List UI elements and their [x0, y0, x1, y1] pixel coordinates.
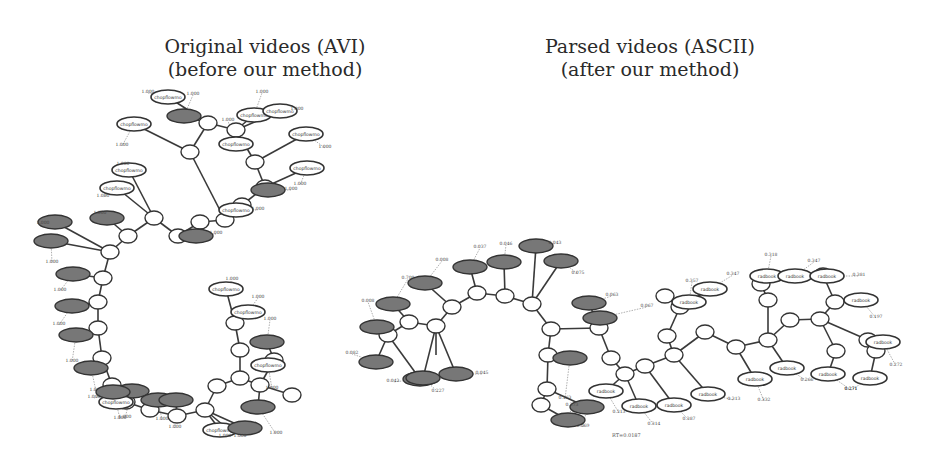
- leaf-score: 0.008: [436, 257, 449, 262]
- internal-node: [199, 116, 217, 130]
- leaf-score: 1.000: [219, 433, 232, 438]
- leaf-ellipse-dark: [55, 299, 89, 313]
- leaf-score: 1.000: [169, 424, 182, 429]
- leaf-score: 1.000: [252, 206, 265, 211]
- leaf-ellipse-dark: [359, 355, 393, 369]
- leaf-score: 0.197: [870, 314, 883, 319]
- leaf-node: radbook0.271: [811, 367, 858, 391]
- leaf-label: chopflowmo: [234, 310, 262, 315]
- leaf-score: 1.000: [53, 321, 66, 326]
- leaf-node: 0.063: [572, 292, 619, 310]
- leaf-node: 0.008: [408, 257, 449, 290]
- leaf-node: radbook0.313: [691, 387, 741, 401]
- leaf-node: radbook0.197: [844, 293, 883, 319]
- leaf-score: 1.000: [88, 394, 101, 399]
- internal-node: [231, 343, 249, 357]
- leaf-score: 1.000: [94, 210, 107, 215]
- internal-node: [89, 295, 107, 309]
- leaf-node: 1.000: [228, 421, 262, 438]
- leaf-node: 0.045: [439, 367, 489, 381]
- internal-node: [656, 289, 674, 303]
- leaf-node: 0.046: [487, 241, 521, 269]
- leaf-score: 0.043: [387, 378, 400, 383]
- leaf-ellipse-dark: [56, 267, 90, 281]
- leaf-score: 0.313: [728, 396, 741, 401]
- leaf-label: radbook: [852, 298, 871, 303]
- internal-node: [231, 371, 249, 385]
- internal-node: [181, 145, 199, 159]
- internal-node: [602, 351, 620, 365]
- internal-node: [196, 403, 214, 417]
- leaf-node: 1.000: [251, 183, 298, 197]
- leaf-node: chopflowmo1.000: [290, 161, 324, 186]
- leaf-edge: [532, 246, 536, 304]
- internal-node: [727, 340, 745, 354]
- leaf-score: 0.318: [765, 252, 778, 257]
- internal-node: [94, 271, 112, 285]
- leaf-label: chopflowmo: [293, 166, 321, 171]
- leaf-node: 0.082: [346, 350, 393, 369]
- leaf-score: 0.046: [500, 241, 513, 246]
- tree-figure: chopflowmo1.000chopflowmo1.0001.000chopf…: [0, 0, 936, 463]
- leaf-node: 1.000: [34, 234, 68, 264]
- leaf-label: radbook: [874, 340, 893, 345]
- internal-node: [658, 329, 676, 343]
- leaf-score: 1.000: [54, 287, 67, 292]
- edges: [43, 93, 325, 437]
- leaf-ellipse-dark: [439, 367, 473, 381]
- leaf-score: 1.000: [97, 193, 110, 198]
- leaf-ellipse-dark: [583, 311, 617, 325]
- leaf-ellipse-dark: [96, 385, 130, 399]
- leaf-score: 1.000: [222, 117, 235, 122]
- leaf-node: 1.000: [179, 229, 223, 243]
- leaf-label: chopflowmo: [222, 142, 250, 147]
- leaf-label: radbook: [746, 377, 765, 382]
- leaf-ellipse-dark: [572, 296, 606, 310]
- leaf-node: 0.163: [553, 351, 587, 400]
- internal-node: [759, 293, 777, 307]
- leaf-ellipse-dark: [159, 393, 193, 407]
- leaf-label: chopflowmo: [120, 122, 148, 127]
- leaf-node: chopflowmo1.000: [289, 127, 332, 149]
- leaf-score: 1.000: [291, 106, 304, 111]
- leaf-label: chopflowmo: [212, 287, 240, 292]
- leaf-ellipse-dark: [487, 255, 521, 269]
- leaf-score: 0.332: [758, 397, 771, 402]
- internal-node: [827, 344, 845, 358]
- leaf-node: 1.000: [90, 210, 124, 225]
- leaf-label: radbook: [778, 366, 797, 371]
- leaf-label: radbook: [680, 300, 699, 305]
- leaf-score: 0.045: [476, 370, 489, 375]
- internal-node: [168, 409, 186, 423]
- leaf-node: radbook0.387: [657, 398, 696, 421]
- internal-node: [400, 315, 418, 329]
- leaf-node: radbook0.347: [693, 271, 740, 296]
- leaf-node: chopflowmo1.000: [97, 181, 134, 198]
- internal-node: [811, 312, 829, 326]
- leaf-ellipse-dark: [553, 351, 587, 365]
- leaf-ellipse-dark: [250, 335, 284, 349]
- leaf-label: chopflowmo: [254, 363, 282, 368]
- leaf-score: 1.000: [285, 186, 298, 191]
- internal-node: [636, 359, 654, 373]
- leaf-label: radbook: [819, 372, 838, 377]
- leaf-score: 0.163: [559, 395, 572, 400]
- rt-footnote: RT=0.0187: [612, 432, 641, 438]
- internal-node: [532, 398, 550, 412]
- leaf-score: 0.063: [606, 292, 619, 297]
- leaf-score: 1.000: [252, 294, 265, 299]
- leaf-score: 1.000: [256, 89, 269, 94]
- leaf-label: chopflowmo: [103, 186, 131, 191]
- leaf-node: chopflowmo1.000: [209, 276, 243, 296]
- leaf-label: chopflowmo: [292, 132, 320, 137]
- leaf-score: 0.008: [362, 298, 375, 303]
- leaf-label: radbook: [818, 274, 837, 279]
- internal-node: [101, 245, 119, 259]
- leaf-score: 1.000: [156, 416, 169, 421]
- internal-node: [538, 382, 556, 396]
- leaf-ellipse-dark: [360, 320, 394, 334]
- internal-node: [283, 388, 301, 402]
- leaf-node: radbook0.314: [622, 399, 661, 426]
- leaf-label: radbook: [630, 404, 649, 409]
- internal-node: [468, 286, 486, 300]
